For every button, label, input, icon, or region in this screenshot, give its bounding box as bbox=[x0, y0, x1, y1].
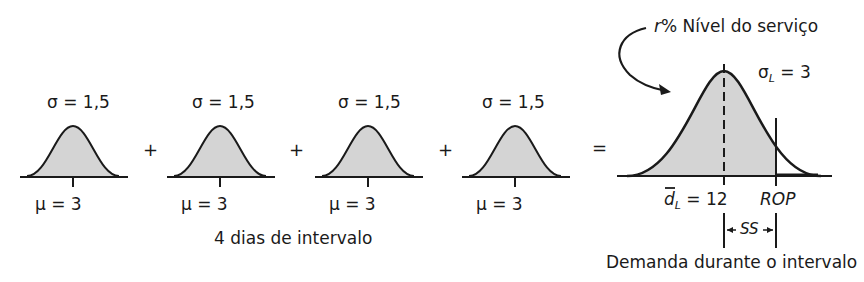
service-level-label: r% Nível do serviço bbox=[654, 18, 818, 35]
mu-label-2: μ = 3 bbox=[181, 196, 228, 213]
lead-time-demand-curve bbox=[617, 64, 832, 248]
plus-operator-2: + bbox=[289, 141, 304, 159]
rop-label: ROP bbox=[760, 191, 795, 208]
service-level-prefix: r bbox=[654, 16, 661, 36]
safety-stock-label: SS bbox=[740, 222, 759, 237]
sigma-l-label: σL = 3 bbox=[758, 64, 811, 84]
sigma-label-4: σ = 1,5 bbox=[482, 94, 545, 111]
diagram-canvas bbox=[0, 0, 864, 282]
curved-pointer-arrow-icon bbox=[619, 28, 671, 95]
daily-demand-curve-2 bbox=[167, 126, 275, 187]
plus-operator-1: + bbox=[143, 141, 158, 159]
mu-label-4: μ = 3 bbox=[476, 196, 523, 213]
sigma-label-1: σ = 1,5 bbox=[47, 94, 110, 111]
daily-demand-curve-4 bbox=[462, 126, 570, 187]
interval-label: 4 dias de intervalo bbox=[214, 230, 372, 247]
service-level-text: % Nível do serviço bbox=[661, 16, 818, 36]
mean-label: dL = 12 bbox=[664, 191, 728, 211]
sigma-label-3: σ = 1,5 bbox=[338, 94, 401, 111]
sigma-label-2: σ = 1,5 bbox=[192, 94, 255, 111]
daily-demand-curve-1 bbox=[20, 126, 128, 187]
daily-demand-curve-3 bbox=[315, 126, 423, 187]
plus-operator-3: + bbox=[438, 141, 453, 159]
mu-label-3: μ = 3 bbox=[329, 196, 376, 213]
lead-time-demand-axis-label: Demanda durante o intervalo bbox=[606, 254, 857, 271]
equals-operator: = bbox=[592, 139, 607, 157]
mu-label-1: μ = 3 bbox=[35, 196, 82, 213]
